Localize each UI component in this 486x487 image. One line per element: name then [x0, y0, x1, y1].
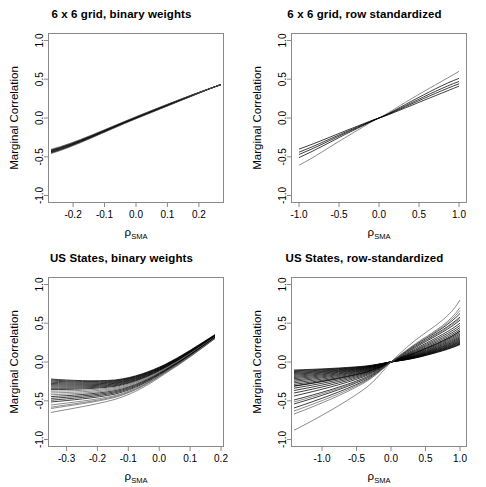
- x-axis-title-top-right: ρSMA: [368, 226, 391, 241]
- x-tick-label: 1.0: [453, 453, 467, 464]
- y-tick-label: 0.5: [34, 316, 45, 330]
- x-tick-label: -0.1: [120, 453, 138, 464]
- y-tick-label: -0.5: [34, 392, 45, 410]
- y-tick-label: -0.5: [277, 148, 288, 166]
- y-axis-ticks-top-right: -1.0 -0.5 0.0 0.5 1.0: [277, 33, 292, 204]
- x-tick-label: -0.2: [64, 209, 82, 220]
- curve-bundle-top-right: [299, 71, 459, 165]
- x-tick-label: 0.1: [183, 453, 197, 464]
- panel-top-right: 6 x 6 grid, row standardized -1.0 -0.5 0…: [243, 0, 486, 243]
- y-tick-label: 0.0: [34, 111, 45, 125]
- plot-bottom-left: -1.0 -0.5 0.0 0.5 1.0 -0.3 -0.2 -0.1 0.0…: [0, 244, 243, 487]
- plot-bottom-right: -1.0 -0.5 0.0 0.5 1.0 -1.0 -0.5 0.0 0.5 …: [243, 244, 486, 487]
- y-tick-label: 0.0: [277, 111, 288, 125]
- x-axis-title-bottom-right: ρSMA: [368, 470, 391, 485]
- plot-top-left: -1.0 -0.5 0.0 0.5 1.0 -0.2 -0.1 0.0 0.1 …: [0, 0, 243, 243]
- y-axis-ticks-top-left: -1.0 -0.5 0.0 0.5 1.0: [34, 33, 49, 204]
- y-axis-title-bottom-right: Marginal Correlation: [251, 310, 263, 414]
- x-tick-label: -0.2: [89, 453, 107, 464]
- y-tick-label: -0.5: [34, 148, 45, 166]
- curve-bundle-bottom-left: [51, 335, 215, 413]
- y-tick-label: 0.5: [277, 316, 288, 330]
- y-tick-label: 0.0: [277, 355, 288, 369]
- figure-panel-grid: 6 x 6 grid, binary weights -1.0 -0.5 0.0…: [0, 0, 486, 487]
- x-tick-label: 0.0: [384, 453, 398, 464]
- x-tick-label: 0.0: [129, 209, 143, 220]
- x-tick-label: -0.5: [330, 209, 348, 220]
- x-tick-label: -1.0: [290, 209, 308, 220]
- panel-top-left: 6 x 6 grid, binary weights -1.0 -0.5 0.0…: [0, 0, 243, 243]
- x-tick-label: 0.2: [192, 209, 206, 220]
- y-axis-ticks-bottom-left: -1.0 -0.5 0.0 0.5 1.0: [34, 277, 49, 448]
- x-axis-title-top-left: ρSMA: [125, 226, 148, 241]
- curve-bundle-top-left: [51, 84, 221, 153]
- y-axis-title-top-left: Marginal Correlation: [8, 66, 20, 170]
- y-tick-label: 1.0: [277, 33, 288, 47]
- y-tick-label: 1.0: [277, 277, 288, 291]
- x-tick-label: 0.2: [214, 453, 228, 464]
- x-tick-label: 0.0: [152, 453, 166, 464]
- y-tick-label: -0.5: [277, 392, 288, 410]
- x-tick-label: 0.5: [412, 209, 426, 220]
- y-axis-title-top-right: Marginal Correlation: [251, 66, 263, 170]
- x-axis-ticks-bottom-left: -0.3 -0.2 -0.1 0.0 0.1 0.2: [58, 447, 228, 465]
- panel-bottom-right: US States, row-standardized -1.0 -0.5 0.…: [243, 244, 486, 487]
- x-axis-ticks-bottom-right: -1.0 -0.5 0.0 0.5 1.0: [313, 447, 467, 465]
- y-tick-label: 1.0: [34, 33, 45, 47]
- y-tick-label: -1.0: [277, 186, 288, 204]
- x-tick-label: -0.5: [348, 453, 366, 464]
- x-tick-label: -0.3: [58, 453, 76, 464]
- y-axis-ticks-bottom-right: -1.0 -0.5 0.0 0.5 1.0: [277, 277, 292, 448]
- y-tick-label: -1.0: [34, 430, 45, 448]
- y-axis-title-bottom-left: Marginal Correlation: [8, 310, 20, 414]
- x-tick-label: -0.1: [96, 209, 114, 220]
- x-tick-label: 1.0: [452, 209, 466, 220]
- y-tick-label: 0.0: [34, 355, 45, 369]
- y-tick-label: -1.0: [34, 186, 45, 204]
- y-tick-label: 0.5: [277, 72, 288, 86]
- y-tick-label: 0.5: [34, 72, 45, 86]
- curve-bundle-bottom-right: [294, 300, 460, 430]
- x-tick-label: -1.0: [313, 453, 331, 464]
- plot-top-right: -1.0 -0.5 0.0 0.5 1.0 -1.0 -0.5 0.0 0.5 …: [243, 0, 486, 243]
- panel-bottom-left: US States, binary weights -1.0 -0.5 0.0 …: [0, 244, 243, 487]
- x-tick-label: 0.5: [419, 453, 433, 464]
- y-tick-label: -1.0: [277, 430, 288, 448]
- x-tick-label: 0.1: [160, 209, 174, 220]
- x-axis-ticks-top-right: -1.0 -0.5 0.0 0.5 1.0: [290, 203, 466, 221]
- x-tick-label: 0.0: [372, 209, 386, 220]
- y-tick-label: 1.0: [34, 277, 45, 291]
- x-axis-ticks-top-left: -0.2 -0.1 0.0 0.1 0.2: [64, 203, 206, 221]
- x-axis-title-bottom-left: ρSMA: [125, 470, 148, 485]
